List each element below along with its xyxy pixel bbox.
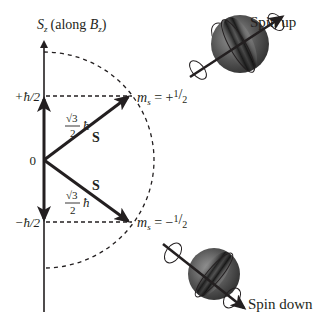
tick-label-zero: 0 bbox=[30, 153, 37, 168]
spin-up-label: Spin up bbox=[250, 14, 296, 30]
diagram-canvas: Sz(along Bz) +ħ/2 0 −ħ/2 √3 2 ħ √3 2 ħ S… bbox=[0, 0, 316, 325]
spin-diagram: Sz(along Bz) +ħ/2 0 −ħ/2 √3 2 ħ √3 2 ħ S… bbox=[0, 0, 316, 325]
tick-label-plus-half: +ħ/2 bbox=[15, 89, 41, 104]
svg-text:√3: √3 bbox=[66, 189, 78, 201]
vector-label-lower: S bbox=[92, 178, 100, 193]
svg-text:ħ: ħ bbox=[83, 195, 90, 210]
vector-label-upper: S bbox=[92, 130, 100, 145]
svg-text:√3: √3 bbox=[66, 112, 78, 124]
magnitude-label-lower: √3 2 ħ bbox=[65, 189, 90, 216]
spin-vector-down bbox=[44, 160, 128, 221]
tick-label-minus-half: −ħ/2 bbox=[15, 215, 41, 230]
ms-label-upper: ms = +1/2 bbox=[137, 87, 187, 107]
svg-text:2: 2 bbox=[70, 127, 76, 139]
axis-label: Sz(along Bz) bbox=[37, 17, 107, 34]
svg-text:2: 2 bbox=[70, 204, 76, 216]
magnitude-arc bbox=[44, 52, 154, 268]
spin-down-electron-icon bbox=[161, 240, 244, 311]
spin-down-label: Spin down bbox=[248, 296, 313, 312]
ms-label-lower: ms = −1/2 bbox=[137, 212, 187, 232]
svg-text:ħ: ħ bbox=[83, 118, 90, 133]
